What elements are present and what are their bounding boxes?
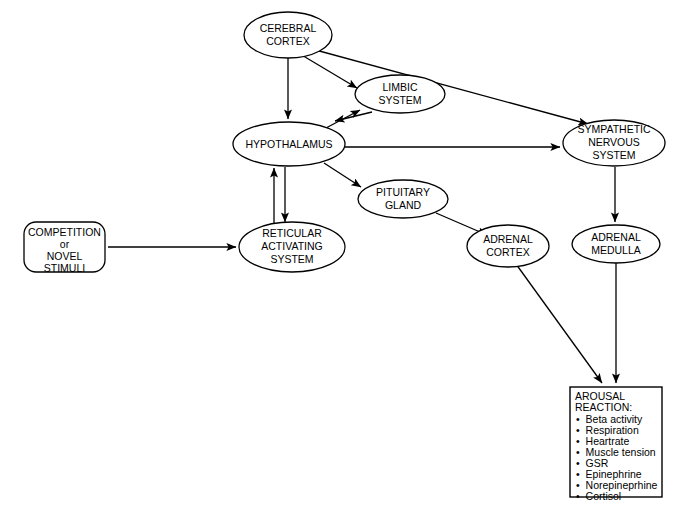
- arousal-reaction-box[interactable]: AROUSAL REACTION: • Beta activity • Resp…: [570, 387, 662, 502]
- pituitary-gland-label-line-2: GLAND: [385, 199, 422, 211]
- limbic-system-label-line-2: SYSTEM: [378, 94, 421, 106]
- node-limbic-system[interactable]: LIMBIC SYSTEM: [355, 75, 445, 113]
- edge-hypothalamus-to-pituitary-gland: [324, 163, 361, 187]
- arousal-bullet-7: •: [576, 490, 580, 502]
- node-adrenal-cortex[interactable]: ADRENAL CORTEX: [467, 225, 549, 267]
- cerebral-cortex-label-line-1: CEREBRAL: [260, 22, 317, 34]
- competition-label-line-1: COMPETITION: [28, 226, 101, 238]
- figure-caption-remnant: [150, 508, 550, 522]
- node-sympathetic-nervous-system[interactable]: SYMPATHETIC NERVOUS SYSTEM: [563, 120, 665, 166]
- edge-hypothalamus-to-limbic-system: [326, 110, 360, 128]
- adrenal-cortex-label-line-2: CORTEX: [486, 246, 530, 258]
- arousal-pathway-diagram: CEREBRAL CORTEX LIMBIC SYSTEM HYPOTHALAM…: [0, 0, 677, 524]
- competition-label-line-3: NOVEL: [47, 250, 83, 262]
- node-pituitary-gland[interactable]: PITUITARY GLAND: [358, 180, 448, 218]
- arousal-title-line-2: REACTION:: [575, 401, 632, 413]
- sympathetic-nervous-system-label-line-1: SYMPATHETIC: [577, 123, 651, 135]
- node-adrenal-medulla[interactable]: ADRENAL MEDULLA: [572, 225, 660, 263]
- node-reticular-activating-system[interactable]: RETICULAR ACTIVATING SYSTEM: [239, 222, 345, 272]
- competition-label-line-4: STIMULI: [44, 262, 85, 274]
- hypothalamus-label: HYPOTHALAMUS: [246, 138, 333, 150]
- adrenal-medulla-label-line-1: ADRENAL: [591, 231, 641, 243]
- cerebral-cortex-label-line-2: CORTEX: [266, 35, 310, 47]
- node-hypothalamus[interactable]: HYPOTHALAMUS: [233, 122, 345, 166]
- adrenal-cortex-label-line-1: ADRENAL: [483, 233, 533, 245]
- adrenal-medulla-label-line-2: MEDULLA: [591, 244, 641, 256]
- node-cerebral-cortex[interactable]: CEREBRAL CORTEX: [244, 12, 332, 58]
- edge-adrenal-cortex-to-arousal-reaction: [516, 264, 602, 383]
- reticular-activating-system-label-line-3: SYSTEM: [270, 253, 313, 265]
- sympathetic-nervous-system-label-line-3: SYSTEM: [592, 149, 635, 161]
- sympathetic-nervous-system-label-line-2: NERVOUS: [588, 136, 640, 148]
- reticular-activating-system-label-line-2: ACTIVATING: [261, 240, 322, 252]
- limbic-system-label-line-1: LIMBIC: [382, 81, 417, 93]
- diagram-canvas: CEREBRAL CORTEX LIMBIC SYSTEM HYPOTHALAM…: [0, 0, 677, 524]
- reticular-activating-system-label-line-1: RETICULAR: [262, 227, 322, 239]
- node-competition-or-novel-stimuli[interactable]: COMPETITION or NOVEL STIMULI: [24, 222, 105, 274]
- competition-label-line-2: or: [60, 238, 70, 250]
- pituitary-gland-label-line-1: PITUITARY: [376, 186, 430, 198]
- arousal-item-label-7: Cortisol: [586, 490, 622, 502]
